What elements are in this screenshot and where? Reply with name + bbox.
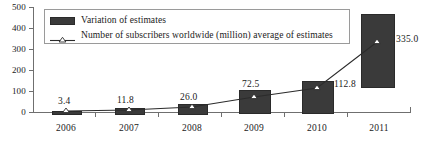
- legend-row-average: Number of subscribers worldwide (million…: [50, 28, 344, 43]
- legend-line-marker-icon: [50, 31, 75, 40]
- data-label-2010: 112.8: [334, 79, 356, 89]
- data-label-2007: 11.8: [117, 95, 134, 105]
- legend-swatch-variation-icon: [50, 17, 75, 25]
- chart-legend: Variation of estimates Number of subscri…: [44, 9, 350, 44]
- data-label-2008: 26.0: [180, 92, 197, 102]
- marker-2011: [374, 39, 381, 44]
- x-tick-label-2011: 2011: [349, 123, 409, 133]
- x-tick-label-2008: 2008: [162, 123, 222, 133]
- average-line: [66, 42, 377, 111]
- x-tick-label-2006: 2006: [36, 123, 96, 133]
- legend-label-average: Number of subscribers worldwide (million…: [81, 30, 333, 41]
- x-tick-label-2010: 2010: [287, 123, 347, 133]
- legend-label-variation: Variation of estimates: [81, 15, 166, 26]
- legend-row-variation: Variation of estimates: [50, 13, 344, 28]
- marker-2007: [126, 107, 133, 112]
- data-label-2011: 335.0: [396, 34, 418, 44]
- chart-container: 500 400 300 200 100 0 3.4 11.8 26.0: [0, 0, 424, 144]
- data-label-2009: 72.5: [242, 79, 259, 89]
- x-tick-label-2007: 2007: [99, 123, 159, 133]
- data-label-2006: 3.4: [58, 96, 70, 106]
- marker-2006: [63, 108, 70, 113]
- x-tick-label-2009: 2009: [224, 123, 284, 133]
